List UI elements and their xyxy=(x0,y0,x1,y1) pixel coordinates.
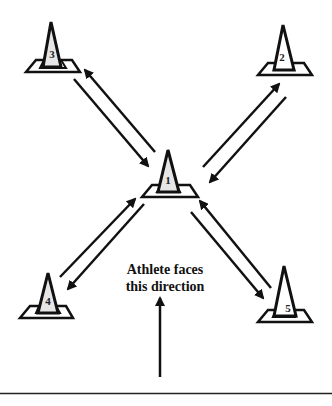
facing-direction-caption: Athlete faces this direction xyxy=(100,261,230,295)
cone-3-label: 3 xyxy=(49,48,55,60)
cone-5-label: 5 xyxy=(285,302,291,314)
cone-drill-diagram: 3 2 1 4 5 xyxy=(0,0,332,406)
arrow-to-cone-3 xyxy=(85,70,155,152)
cone-4: 4 xyxy=(20,273,73,318)
caption-line-2: this direction xyxy=(100,278,230,295)
caption-line-1: Athlete faces xyxy=(100,261,230,278)
cone-1-label: 1 xyxy=(165,174,171,186)
cone-5: 5 xyxy=(258,266,312,322)
arrow-to-cone-1 xyxy=(210,97,286,182)
cone-3-icon xyxy=(43,22,61,67)
cone-2-icon xyxy=(274,25,294,70)
cone-4-label: 4 xyxy=(45,295,51,307)
path-1-3 xyxy=(74,70,155,166)
cone-4-icon xyxy=(38,273,58,313)
path-1-2 xyxy=(203,84,286,182)
cone-1: 1 xyxy=(142,150,198,197)
cone-2-label: 2 xyxy=(279,51,285,63)
arrow-to-cone-2 xyxy=(203,84,279,167)
arrow-to-cone-1 xyxy=(74,79,148,166)
cone-3: 3 xyxy=(26,22,80,72)
cone-2: 2 xyxy=(258,25,312,75)
